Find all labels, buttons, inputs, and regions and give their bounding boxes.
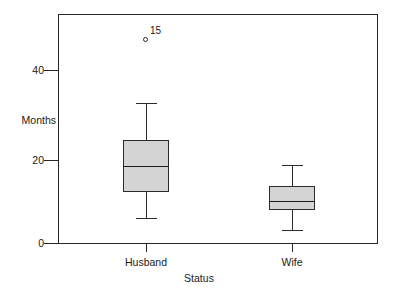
box-rect-wife xyxy=(269,186,315,210)
x-axis-tick-wife xyxy=(292,244,293,252)
y-axis-tick-label-0: 0 xyxy=(0,238,44,249)
whisker-upper-cap-husband xyxy=(136,103,157,104)
x-axis-title: Status xyxy=(0,272,398,284)
y-axis-tick-label-20: 20 xyxy=(0,155,44,166)
y-axis-tick-text-20: 20 xyxy=(32,154,44,166)
whisker-lower-stem-husband xyxy=(146,192,147,218)
plot-area-frame xyxy=(58,14,378,244)
whisker-lower-stem-wife xyxy=(292,210,293,230)
whisker-upper-cap-wife xyxy=(282,165,303,166)
y-axis-tick-0 xyxy=(44,243,58,244)
y-axis-tick-20 xyxy=(44,160,58,161)
whisker-lower-cap-husband xyxy=(136,218,157,219)
whisker-upper-stem-wife xyxy=(292,165,293,186)
y-axis-tick-label-40: 40 xyxy=(0,65,44,76)
outlier-marker-husband xyxy=(143,37,148,42)
boxplot-chart: 0 20 40 Months Husband Wife Status 15 xyxy=(0,0,398,297)
y-axis-tick-40 xyxy=(44,70,58,71)
y-axis-tick-text-0: 0 xyxy=(38,237,44,249)
x-axis-tick-label-wife: Wife xyxy=(282,256,303,268)
whisker-lower-cap-wife xyxy=(282,230,303,231)
median-line-wife xyxy=(269,201,315,202)
outlier-label-husband: 15 xyxy=(150,25,161,36)
median-line-husband xyxy=(123,166,169,167)
x-axis-tick-label-husband: Husband xyxy=(125,256,167,268)
y-axis-tick-text-40: 40 xyxy=(32,64,44,76)
y-axis-title: Months xyxy=(0,114,56,126)
x-axis-tick-husband xyxy=(146,244,147,252)
whisker-upper-stem-husband xyxy=(146,103,147,140)
